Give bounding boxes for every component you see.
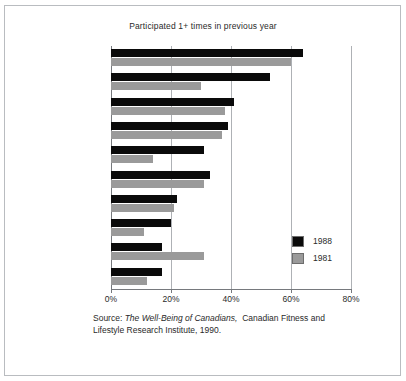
x-tick-40% [231, 289, 232, 293]
chart-figure: Participated 1+ times in previous year W… [0, 0, 406, 381]
source-line-2: Lifestyle Research Institute, 1990. [93, 325, 221, 335]
bar-1988 [111, 243, 162, 251]
source-note: Source: The Well-Being of Canadians, Can… [93, 312, 393, 336]
bar-1988 [111, 49, 303, 57]
legend-label-1981: 1981 [313, 253, 332, 263]
legend-swatch-1981 [292, 253, 304, 264]
x-tick-80% [351, 289, 352, 293]
chart-row: Gardening [111, 70, 351, 94]
bar-1981 [111, 277, 147, 285]
bar-1981 [111, 155, 153, 163]
source-publication-title: The Well-Being of Canadians, [125, 313, 238, 323]
x-tick-label-60%: 60% [271, 294, 311, 304]
bar-1988 [111, 171, 210, 179]
bar-1988 [111, 268, 162, 276]
bar-1981 [111, 82, 201, 90]
chart-row: Swimming [111, 95, 351, 119]
chart-row: Skating [111, 192, 351, 216]
x-tick-0% [111, 289, 112, 293]
chart-row: Golf [111, 265, 351, 289]
source-institute: Canadian Fitness and [242, 313, 325, 323]
bar-1988 [111, 122, 228, 130]
bar-1981 [111, 180, 204, 188]
bar-1988 [111, 195, 177, 203]
chart-row: Walking [111, 46, 351, 70]
legend-entry: 1988 [292, 234, 352, 251]
x-tick-60% [291, 289, 292, 293]
source-prefix: Source: [93, 313, 122, 323]
bar-1981 [111, 204, 174, 212]
bar-1988 [111, 219, 171, 227]
bar-1988 [111, 73, 270, 81]
bar-1981 [111, 228, 144, 236]
chart-title: Participated 1+ times in previous year [0, 21, 406, 31]
chart-row: Bicycling [111, 119, 351, 143]
bar-1981 [111, 58, 291, 66]
x-tick-label-40%: 40% [211, 294, 251, 304]
bar-1988 [111, 98, 234, 106]
chart-legend: 19881981 [292, 234, 352, 268]
legend-swatch-1988 [292, 236, 304, 247]
x-tick-label-20%: 20% [151, 294, 191, 304]
x-tick-20% [171, 289, 172, 293]
bar-1981 [111, 131, 222, 139]
chart-row: Social dancing [111, 143, 351, 167]
x-tick-label-0%: 0% [91, 294, 131, 304]
legend-entry: 1981 [292, 251, 352, 268]
bar-1988 [111, 146, 204, 154]
legend-label-1988: 1988 [313, 236, 332, 246]
bar-1981 [111, 107, 225, 115]
chart-row: Home exercise [111, 168, 351, 192]
x-tick-label-80%: 80% [331, 294, 371, 304]
bar-1981 [111, 252, 204, 260]
